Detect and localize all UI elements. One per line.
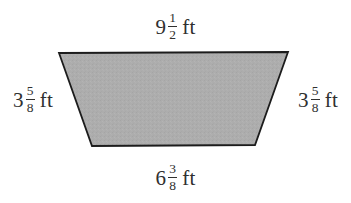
fraction-right: 5 8 [311, 84, 320, 114]
whole-number-right: 3 [298, 90, 309, 111]
dimension-label-right: 3 5 8 ft [287, 83, 349, 117]
mixed-number-left: 3 5 8 ft [13, 85, 53, 115]
unit-label-left: ft [40, 90, 53, 111]
fraction-bottom: 3 8 [168, 162, 177, 192]
fraction-numerator-bottom: 3 [168, 162, 177, 177]
dimension-label-left: 3 5 8 ft [2, 83, 64, 117]
unit-label-right: ft [325, 90, 338, 111]
fraction-numerator-right: 5 [311, 84, 320, 99]
fraction-denominator-bottom: 8 [168, 178, 177, 193]
fraction-denominator-left: 8 [26, 100, 35, 115]
fraction-denominator-top: 2 [168, 27, 177, 42]
whole-number-left: 3 [13, 90, 24, 111]
dimension-label-bottom: 6 3 8 ft [118, 161, 233, 195]
dimension-label-top: 9 1 2 ft [118, 10, 233, 44]
unit-label-top: ft [182, 17, 195, 38]
fraction-left: 5 8 [26, 84, 35, 114]
fraction-top: 1 2 [168, 11, 177, 41]
geometry-figure: 9 1 2 ft 6 3 8 ft 3 5 8 [0, 0, 351, 203]
mixed-number-right: 3 5 8 ft [298, 85, 338, 115]
trapezoid-polygon [59, 52, 288, 146]
whole-number-top: 9 [156, 17, 167, 38]
unit-label-bottom: ft [182, 168, 195, 189]
whole-number-bottom: 6 [156, 168, 167, 189]
mixed-number-bottom: 6 3 8 ft [156, 163, 196, 193]
fraction-denominator-right: 8 [311, 100, 320, 115]
fraction-numerator-left: 5 [26, 84, 35, 99]
fraction-numerator-top: 1 [168, 11, 177, 26]
mixed-number-top: 9 1 2 ft [156, 12, 196, 42]
